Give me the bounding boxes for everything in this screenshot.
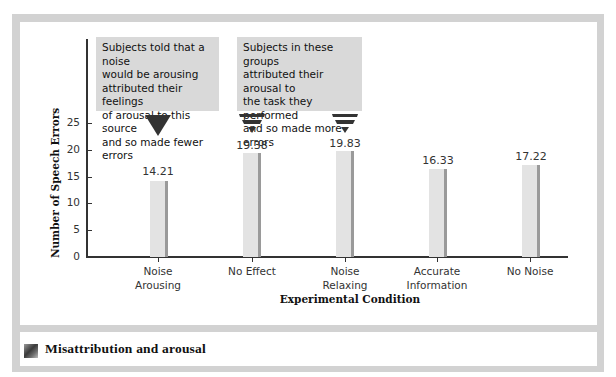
x-category-label: Noise Arousing [113,264,203,292]
label-line: No Noise [485,264,575,278]
label-line: Relaxing [300,278,390,292]
annotation-fewer-errors: Subjects told that a noise would be arou… [96,37,219,111]
bar-noise-relaxing [336,151,354,257]
y-axis-title: Number of Speech Errors [49,103,61,263]
y-tick [86,177,92,178]
x-category-label: No Noise [485,264,575,278]
x-tick [437,257,438,262]
x-tick [158,257,159,262]
y-tick [86,230,92,231]
figure-caption: Misattribution and arousal [45,341,206,357]
annotation-line: Subjects in these groups [243,41,357,68]
label-line: Accurate [392,264,482,278]
x-category-label: Accurate Information [392,264,482,292]
bar-noise-arousing [150,181,168,257]
x-category-label: No Effect [207,264,297,278]
annotation-line: attributed their arousal to [243,68,357,95]
bar-value-label: 14.21 [128,165,188,178]
y-tick [86,150,92,151]
annotation-line: would be arousing [102,68,214,82]
bar-value-label: 16.33 [408,154,468,167]
bar-no-effect [243,153,261,257]
x-tick [530,257,531,262]
label-line: Information [392,278,482,292]
bar-value-label: 19.83 [315,137,375,150]
y-tick [86,257,92,258]
x-axis-title: Experimental Condition [270,293,430,305]
label-line: Arousing [113,278,203,292]
label-line: Noise [113,264,203,278]
annotation-line: Subjects told that a noise [102,41,214,68]
annotation-line: attributed their feelings [102,82,214,109]
annotation-line: and so made fewer errors [102,136,214,163]
bar-accurate-information [429,169,447,257]
bar-no-noise [522,165,540,257]
bar-value-label: 17.22 [501,150,561,163]
striped-down-arrow-icon [332,114,358,136]
down-arrow-icon [145,115,171,136]
x-category-label: Noise Relaxing [300,264,390,292]
figure-thumbnail-icon [24,344,38,358]
label-line: No Effect [207,264,297,278]
bar-value-label: 19.38 [222,139,282,152]
y-axis [86,39,88,258]
striped-down-arrow-icon [239,114,265,136]
label-line: Noise [300,264,390,278]
x-tick [252,257,253,262]
y-tick [86,203,92,204]
y-tick [86,123,92,124]
x-tick [345,257,346,262]
annotation-more-errors: Subjects in these groups attributed thei… [237,37,362,111]
